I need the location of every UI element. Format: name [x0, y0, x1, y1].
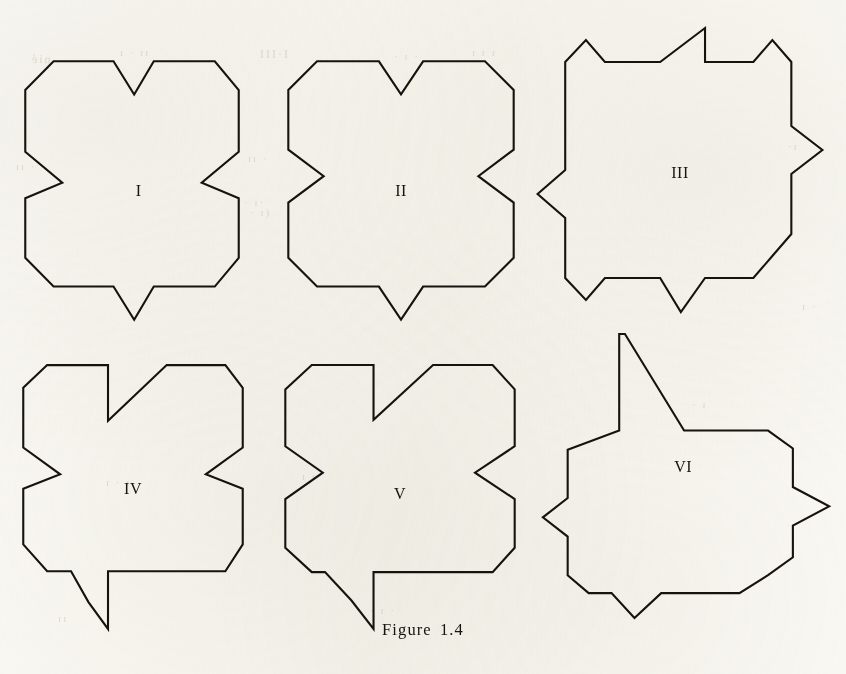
polygon-v-label: V [394, 485, 406, 503]
polygon-iv-cell: IV [20, 362, 246, 632]
polygon-i-outline [25, 61, 238, 319]
polygon-iii-label: III [671, 164, 688, 182]
polygon-v-cell: V [282, 362, 518, 632]
polygon-vi-label: VI [674, 458, 692, 476]
figure-page: niéıı · ıI·III· ı ·ı ı ı· ııı··ı ·(ı ·· … [0, 0, 846, 674]
figure-shape-grid: IIIIIIIVVVI [0, 0, 846, 674]
polygon-ii-label: II [395, 182, 407, 200]
polygon-i-label: I [136, 182, 142, 200]
polygon-ii-cell: II [285, 58, 517, 323]
polygon-i-cell: I [22, 58, 242, 323]
polygon-iv-label: IV [124, 480, 142, 498]
polygon-iii-cell: III [535, 25, 825, 315]
polygon-i-outline-svg [22, 58, 242, 323]
figure-caption: Figure 1.4 [0, 620, 846, 640]
polygon-vi-cell: VI [540, 332, 832, 620]
